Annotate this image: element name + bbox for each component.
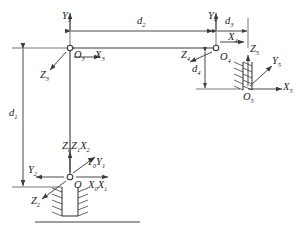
origin-label-O5: O5: [243, 92, 254, 105]
x-axis-0-1-label: X0X1: [88, 180, 107, 193]
z-axis-5-label: Z5: [250, 44, 259, 57]
x-axis-5-label: X5: [283, 82, 293, 95]
origin-marker-O: [67, 174, 73, 180]
dimension-d4-label: d4: [192, 64, 201, 77]
z-axis-4-label: Z4: [181, 50, 190, 63]
y-axis-2-label: Y2: [28, 165, 37, 178]
x-axis-3-label: X3: [95, 50, 105, 63]
y-axis-5-label: Y5: [272, 56, 281, 69]
y-axis-4-label: Y4: [208, 11, 217, 24]
origin-label-O4: O4: [220, 52, 231, 65]
z-axis-2-label: Z2: [31, 196, 40, 209]
dimension-d2-label: d2: [137, 16, 146, 29]
diagram-canvas: d2 d1 d3 d4 Y3 O3 X3 Z3 Y4 O4 X4 Z4 Z5 Y…: [0, 0, 304, 243]
origin-marker-O4: [213, 45, 218, 50]
diagram-vector-layer: [0, 0, 304, 243]
ground-hatch-end-effector: [234, 62, 252, 90]
y-axis-3-label: Y3: [62, 11, 71, 24]
z-axis-3-label: Z3: [40, 70, 49, 83]
z-axis-0-1-x-axis-2-label: Z0Z1X2: [62, 141, 90, 154]
ground-hatch-base: [52, 187, 88, 216]
origin-marker-O3: [67, 45, 72, 50]
dimension-d4-line: [196, 52, 240, 89]
x-axis-4-label: X4: [228, 32, 238, 45]
y-axis-0-1-label: Y0Y1: [87, 157, 105, 170]
dimension-d1-label: d1: [9, 108, 18, 121]
origin-label-O: O: [74, 180, 82, 191]
origin-label-O3: O3: [74, 50, 85, 63]
dimension-d3-label: d3: [225, 16, 234, 29]
